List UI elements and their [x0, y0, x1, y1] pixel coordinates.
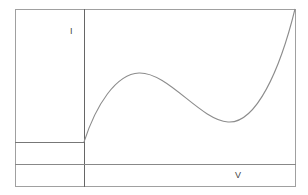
outer-frame [16, 10, 296, 187]
iv-curve-diagram [0, 0, 308, 195]
iv-curve [84, 9, 295, 142]
y-axis-label: I [70, 27, 73, 36]
x-axis-label: V [235, 171, 241, 180]
